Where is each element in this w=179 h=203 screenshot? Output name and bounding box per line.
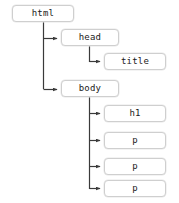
node-p-1[interactable]: p (104, 132, 166, 149)
node-p-2[interactable]: p (104, 158, 166, 175)
node-title[interactable]: title (104, 53, 166, 70)
dom-tree-diagram: html head title body h1 p p p (0, 0, 179, 203)
node-head[interactable]: head (61, 29, 119, 46)
node-body[interactable]: body (61, 80, 119, 97)
node-p-3[interactable]: p (104, 180, 166, 197)
node-html[interactable]: html (12, 5, 74, 22)
node-h1[interactable]: h1 (104, 105, 166, 122)
